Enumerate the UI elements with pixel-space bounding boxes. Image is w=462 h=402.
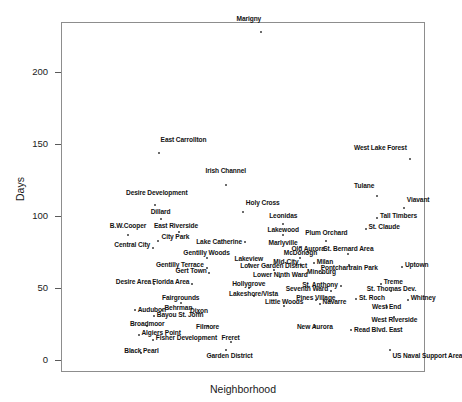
data-point-label: Black Pearl bbox=[124, 348, 158, 355]
data-point-label: St. Bernard Area bbox=[323, 246, 373, 253]
data-point-label: Desire Development bbox=[126, 190, 188, 197]
data-point-label: Lower Ninth Ward bbox=[253, 272, 308, 279]
data-point-label: Mineburg bbox=[307, 269, 336, 276]
data-point-label: West End bbox=[372, 304, 401, 311]
x-axis-title: Neighborhood bbox=[61, 383, 425, 395]
data-point-label: Lake Catherine bbox=[196, 239, 242, 246]
y-tick-label: 200 bbox=[0, 67, 48, 77]
y-tick-mark bbox=[55, 216, 61, 217]
data-point-label: Whitney bbox=[411, 295, 436, 302]
data-point-label: Central City bbox=[114, 242, 150, 249]
data-point[interactable] bbox=[157, 240, 159, 242]
data-point[interactable] bbox=[313, 262, 315, 264]
data-point[interactable] bbox=[355, 298, 357, 300]
data-point[interactable] bbox=[401, 266, 403, 268]
y-tick-label: 0 bbox=[0, 355, 48, 365]
data-point-label: Gert Town bbox=[175, 268, 206, 275]
data-point-label: Bayou St. John bbox=[157, 312, 204, 319]
data-point[interactable] bbox=[158, 152, 160, 154]
y-tick-mark bbox=[55, 360, 61, 361]
data-point-label: Seventh Ward bbox=[286, 286, 329, 293]
data-point-label: Plum Orchard bbox=[305, 230, 347, 237]
y-tick-label: 100 bbox=[0, 211, 48, 221]
data-point-label: Tulane bbox=[354, 183, 374, 190]
data-point[interactable] bbox=[206, 257, 208, 259]
data-point[interactable] bbox=[403, 207, 405, 209]
data-point-label: Florida Area bbox=[152, 279, 189, 286]
data-point[interactable] bbox=[154, 204, 156, 206]
data-point[interactable] bbox=[409, 158, 411, 160]
y-tick-mark bbox=[55, 288, 61, 289]
data-point-label: East Riverside bbox=[154, 223, 198, 230]
y-axis-title: Days bbox=[14, 159, 26, 219]
data-point[interactable] bbox=[340, 285, 342, 287]
data-point[interactable] bbox=[134, 309, 136, 311]
data-point-label: City Park bbox=[162, 234, 190, 241]
data-point-label: New Aurora bbox=[297, 324, 333, 331]
data-point-label: Broadmoor bbox=[130, 321, 165, 328]
y-tick-label: 150 bbox=[0, 139, 48, 149]
data-point-label: Read Blvd. East bbox=[354, 327, 402, 334]
data-point-label: Gentilly Woods bbox=[183, 250, 229, 257]
data-point-label: US Naval Support Area bbox=[392, 353, 462, 360]
data-point-label: Irish Channel bbox=[206, 168, 246, 175]
data-point-label: West Lake Forest bbox=[354, 145, 407, 152]
data-point[interactable] bbox=[376, 217, 378, 219]
y-tick-mark bbox=[55, 144, 61, 145]
data-point-label: Uptown bbox=[405, 262, 429, 269]
data-point-label: McDonogh bbox=[284, 250, 317, 257]
data-point[interactable] bbox=[282, 223, 284, 225]
data-point[interactable] bbox=[407, 299, 409, 301]
data-point-label: Tall Timbers bbox=[380, 213, 417, 220]
data-point-label: Leonidas bbox=[269, 213, 297, 220]
data-point-label: Fairgrounds bbox=[162, 295, 199, 302]
data-point[interactable] bbox=[138, 334, 140, 336]
y-axis: Days bbox=[0, 0, 61, 402]
y-tick-mark bbox=[55, 72, 61, 73]
data-point-label: Fisher Development bbox=[156, 335, 217, 342]
data-point-label: Holy Cross bbox=[246, 200, 280, 207]
data-point-label: St. Claude bbox=[368, 224, 399, 231]
data-point-label: Filmore bbox=[196, 324, 219, 331]
data-point-label: Marigny bbox=[237, 16, 262, 23]
data-point-label: Lakewood bbox=[267, 227, 298, 234]
data-point-label: St. Roch bbox=[359, 295, 385, 302]
data-point-label: Viavant bbox=[407, 197, 430, 204]
data-point-label: Hollygrove bbox=[232, 281, 265, 288]
data-point-label: West Riverside bbox=[371, 317, 417, 324]
plot-area bbox=[61, 22, 425, 372]
data-point-label: Desire Area bbox=[116, 279, 151, 286]
data-point-label: B.W.Cooper bbox=[110, 223, 146, 230]
data-point-label: Navarre bbox=[323, 299, 347, 306]
y-tick-label: 50 bbox=[0, 283, 48, 293]
data-point-label: Little Woods bbox=[265, 299, 303, 306]
data-point[interactable] bbox=[153, 315, 155, 317]
data-point[interactable] bbox=[225, 184, 227, 186]
data-point-label: Garden District bbox=[207, 353, 253, 360]
data-point-label: East Carrollton bbox=[161, 137, 207, 144]
data-point-label: Dillard bbox=[151, 209, 171, 216]
data-point-label: Lakeshore/Vista bbox=[229, 291, 278, 298]
data-point-label: Freret bbox=[222, 335, 240, 342]
data-point-label: Lower Garden District bbox=[240, 263, 307, 270]
data-point-label: St. Thomas Dev. bbox=[367, 286, 416, 293]
